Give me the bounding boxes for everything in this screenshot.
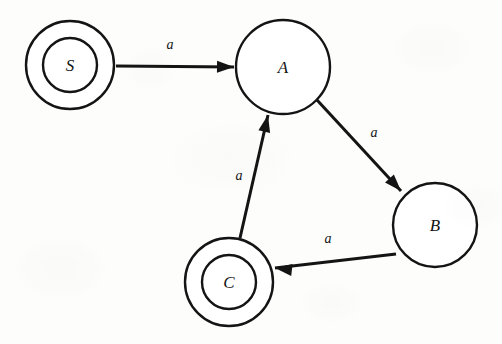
edge-a-to-b-label: a [371, 125, 378, 140]
state-node-s[interactable]: S [26, 21, 114, 109]
edge-c-to-a-line [240, 115, 268, 238]
edge-b-to-c-line [275, 254, 396, 268]
edge-s-to-a-line [116, 66, 234, 67]
state-node-b-label: B [430, 216, 441, 235]
edge-c-to-a[interactable]: a [236, 115, 271, 238]
edge-s-to-a-arrowhead [217, 61, 234, 73]
edge-c-to-a-label: a [236, 168, 243, 183]
edge-a-to-b-line [317, 100, 401, 191]
state-node-b[interactable]: B [393, 183, 477, 267]
edge-s-to-a[interactable]: a [116, 37, 234, 73]
state-node-a-label: A [277, 58, 289, 77]
edge-b-to-c[interactable]: a [275, 231, 396, 276]
state-node-s-label: S [66, 56, 75, 75]
node-group: S A B C [26, 20, 477, 326]
edge-b-to-c-label: a [325, 231, 332, 246]
state-node-c-label: C [223, 273, 235, 292]
state-diagram-canvas: a a a a S A [0, 0, 502, 344]
edge-s-to-a-label: a [167, 37, 174, 52]
state-node-a[interactable]: A [236, 20, 330, 114]
edge-a-to-b[interactable]: a [317, 100, 401, 191]
state-node-c[interactable]: C [185, 238, 273, 326]
